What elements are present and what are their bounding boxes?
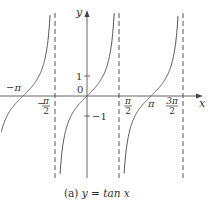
x-tick-label-pi: π — [147, 98, 155, 109]
x-tick-neg-pi-over-2-num: π — [42, 96, 50, 106]
caption-prefix: (a) — [64, 187, 82, 199]
y-tick-label-1: 1 — [76, 71, 82, 82]
y-axis-arrow-icon — [85, 10, 90, 17]
caption-function: y = tan x — [81, 187, 130, 199]
x-tick-pi-over-2-num: π — [124, 96, 132, 106]
y-tick-label-neg1: −1 — [92, 111, 107, 122]
x-tick-label-neg-pi: −π — [6, 82, 21, 93]
x-tick-3pi-over-2-num: 3π — [166, 96, 179, 106]
y-tick-label-0: 0 — [77, 84, 83, 95]
tan-chart: y x 1 0 −1 −π − π 2 π 2 π 3π 2 (a) y = t… — [0, 0, 216, 214]
tan-curve — [1, 13, 178, 174]
y-axis-label: y — [75, 6, 83, 19]
x-tick-pi-over-2-den: 2 — [125, 106, 131, 116]
chart-caption: (a) y = tan x — [64, 187, 130, 199]
x-axis-label: x — [199, 97, 206, 110]
x-tick-neg-pi-over-2-den: 2 — [43, 106, 49, 116]
x-tick-3pi-over-2-den: 2 — [169, 106, 175, 116]
